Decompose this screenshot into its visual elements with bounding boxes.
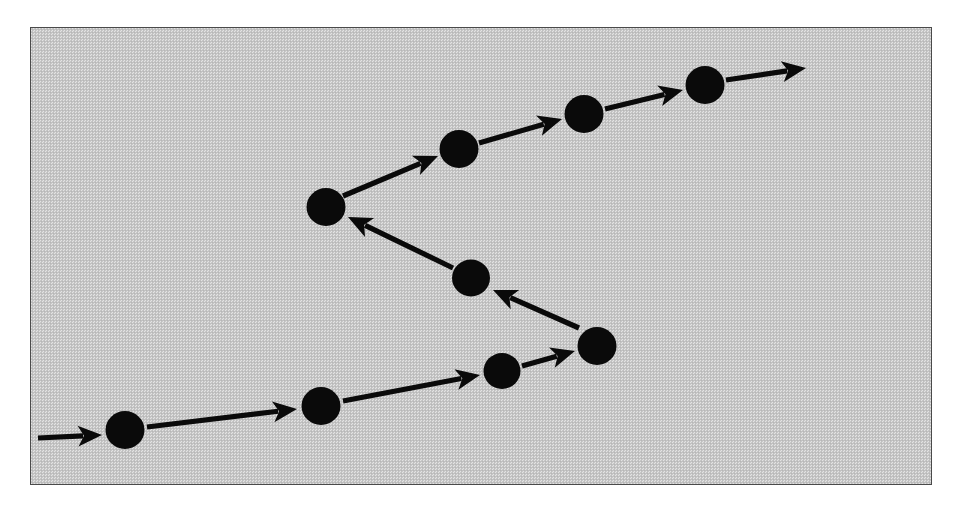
arrow-a2 xyxy=(343,369,480,401)
node-n5 xyxy=(452,260,490,297)
node-n1 xyxy=(106,411,145,449)
arrow-a8 xyxy=(605,85,683,109)
arrow-a7 xyxy=(479,116,562,143)
arrow-shaft xyxy=(365,225,453,268)
nodes-layer xyxy=(106,66,725,449)
arrows-layer xyxy=(38,61,806,446)
arrow-a6 xyxy=(343,156,438,196)
arrow-a0 xyxy=(38,426,102,447)
node-n4 xyxy=(578,327,617,365)
arrow-a9 xyxy=(726,61,806,82)
node-n3 xyxy=(484,353,521,389)
arrow-shaft xyxy=(510,298,579,328)
figure-root xyxy=(0,0,958,520)
arrow-a4 xyxy=(493,290,579,328)
arrow-shaft xyxy=(479,124,544,143)
node-n6 xyxy=(307,188,346,226)
node-n7 xyxy=(440,130,479,168)
arrow-shaft xyxy=(343,163,420,196)
arrow-shaft xyxy=(605,94,665,109)
arrow-shaft xyxy=(343,379,461,401)
arrow-a5 xyxy=(348,217,453,268)
arrow-a3 xyxy=(522,347,575,367)
node-n9 xyxy=(686,66,725,104)
arrow-shaft xyxy=(38,436,83,438)
arrow-a1 xyxy=(147,401,297,427)
diagram-frame xyxy=(30,27,932,485)
arrow-shaft xyxy=(726,71,787,80)
node-n8 xyxy=(565,95,604,133)
node-n2 xyxy=(302,387,341,425)
arrow-shaft xyxy=(522,356,557,366)
walk-diagram-canvas xyxy=(31,28,932,485)
arrow-shaft xyxy=(147,411,278,427)
